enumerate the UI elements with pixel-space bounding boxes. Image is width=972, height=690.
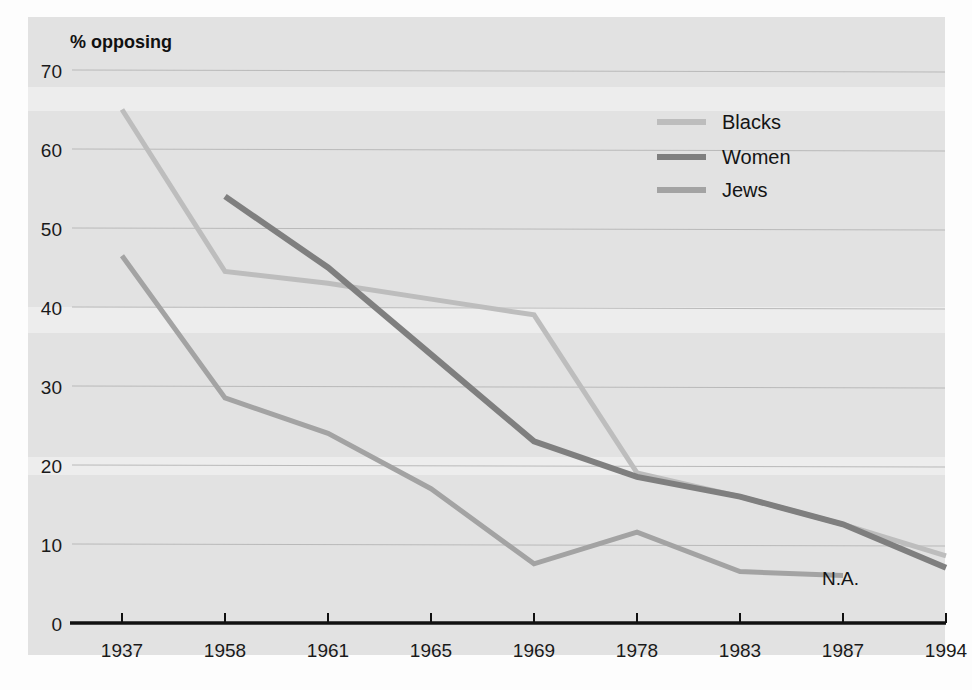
x-tick-label-1987: 1987: [822, 640, 864, 661]
gridlines: [72, 70, 945, 546]
gridline-30: [72, 386, 945, 388]
series-line-blacks: [122, 110, 946, 556]
series-line-jews: [122, 256, 843, 576]
y-tick-20: 20: [41, 456, 62, 477]
x-tick-label-1978: 1978: [616, 640, 658, 661]
y-tick-0: 0: [51, 614, 62, 635]
chart-title: % opposing: [70, 32, 172, 52]
y-tick-40: 40: [41, 298, 62, 319]
chart-legend: Blacks Women Jews: [657, 111, 791, 201]
series-line-women: [225, 196, 946, 567]
x-axis-labels: 1937 1958 1961 1965 1969 1978 1983 1987 …: [101, 640, 968, 661]
gridline-50: [72, 228, 945, 230]
legend-label-jews: Jews: [722, 179, 768, 201]
y-tick-70: 70: [41, 61, 62, 82]
x-tick-label-1969: 1969: [513, 640, 555, 661]
x-tick-label-1937: 1937: [101, 640, 143, 661]
legend-label-women: Women: [722, 146, 791, 168]
y-tick-50: 50: [41, 219, 62, 240]
x-tick-label-1983: 1983: [719, 640, 761, 661]
x-tick-label-1965: 1965: [410, 640, 452, 661]
legend-label-blacks: Blacks: [722, 111, 781, 133]
annotation-na: N.A.: [822, 568, 859, 589]
gridline-70: [72, 70, 945, 72]
x-tick-label-1958: 1958: [204, 640, 246, 661]
gridline-60: [72, 149, 945, 151]
line-chart: 70 60 50 40 30 20 10 0 % opposing N.A.: [0, 0, 972, 690]
y-tick-10: 10: [41, 535, 62, 556]
y-tick-30: 30: [41, 377, 62, 398]
chart-screenshot: 70 60 50 40 30 20 10 0 % opposing N.A.: [0, 0, 972, 690]
gridline-20: [72, 465, 945, 467]
y-axis-labels: 70 60 50 40 30 20 10 0: [41, 61, 62, 635]
x-tick-label-1961: 1961: [307, 640, 349, 661]
y-tick-60: 60: [41, 140, 62, 161]
x-tick-label-1994: 1994: [925, 640, 968, 661]
